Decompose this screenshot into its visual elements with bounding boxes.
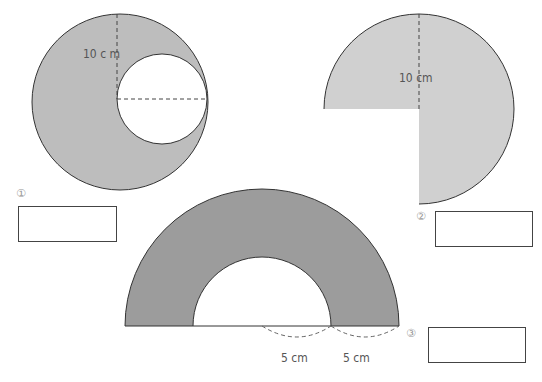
worksheet-figures: 10 c m 10 cm 5 cm 5 cm ① ② ③ [0,0,542,382]
figure-2: 10 cm [324,14,514,204]
figure-1: 10 c m [32,14,208,190]
figure-3-dimension-arc-1 [262,326,331,337]
figure-1-length-label: 10 c m [83,47,120,61]
answer-box-3[interactable] [428,327,526,363]
figure-3-dimension-arc-2 [331,326,399,337]
problem-1-number: ① [16,187,26,200]
figure-3-shaded-region [125,189,399,326]
problem-2-number: ② [416,210,426,223]
figure-3-inner-radius-label: 5 cm [281,351,308,365]
answer-box-2[interactable] [435,211,533,247]
problem-3-number: ③ [406,327,416,340]
figure-2-length-label: 10 cm [399,71,433,85]
figure-3-width-label: 5 cm [343,351,370,365]
figure-1-shaded-region [32,14,208,190]
figure-3: 5 cm 5 cm [125,189,399,365]
answer-box-1[interactable] [18,206,117,242]
